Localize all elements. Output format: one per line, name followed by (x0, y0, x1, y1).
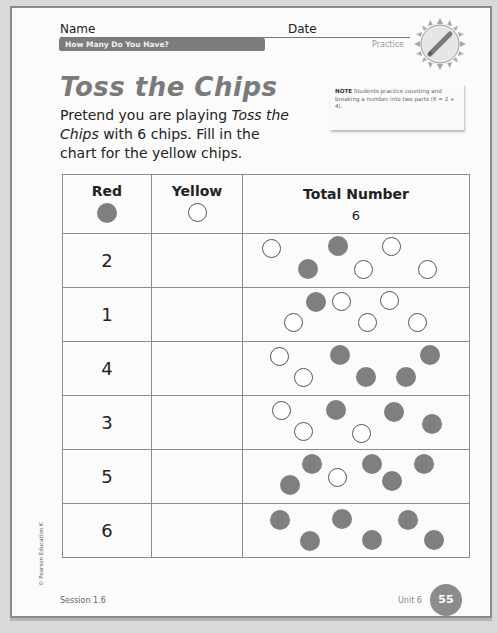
red-count-cell: 5 (63, 450, 152, 504)
yellow-chip-icon (382, 237, 401, 256)
note-text: Students practice counting and breaking … (335, 88, 455, 109)
chart-header-row: Red Yellow Total Number 6 (63, 175, 470, 234)
yellow-chip-icon (272, 401, 291, 420)
red-chip-icon (356, 367, 376, 387)
yellow-chip-icon (408, 313, 427, 332)
yellow-answer-cell[interactable] (152, 450, 243, 504)
red-chip-icon (306, 292, 326, 312)
yellow-answer-cell[interactable] (152, 504, 243, 558)
table-row: 2 (63, 234, 470, 288)
teacher-note: NOTE Students practice counting and brea… (330, 84, 464, 130)
table-row: 6 (63, 504, 470, 558)
red-chip-icon (300, 531, 320, 551)
red-chip-icon (328, 236, 348, 256)
red-chip-icon (414, 454, 434, 474)
yellow-chip-icon (262, 239, 281, 258)
chips-group (248, 504, 464, 557)
yellow-chip-icon (294, 422, 313, 441)
unit-title-bar: How Many Do You Have? (59, 38, 265, 51)
yellow-chip-icon (294, 368, 313, 387)
yellow-header-label: Yellow (172, 183, 223, 199)
practice-label: Practice (372, 40, 404, 49)
yellow-answer-cell[interactable] (152, 342, 243, 396)
yellow-chip-icon (328, 468, 347, 487)
total-header-label: Total Number (303, 186, 409, 202)
yellow-chip-icon (352, 424, 371, 443)
yellow-chip-icon (284, 313, 303, 332)
table-row: 1 (63, 288, 470, 342)
red-chip-icon (396, 367, 416, 387)
copyright: © Pearson Education K (38, 522, 44, 586)
red-chip-icon (97, 203, 117, 223)
red-count-cell: 3 (63, 396, 152, 450)
total-chips-cell (243, 396, 470, 450)
red-chip-icon (270, 510, 290, 530)
total-chips-cell (243, 504, 470, 558)
date-label: Date (288, 22, 317, 36)
red-chip-icon (326, 400, 346, 420)
pencil-icon (414, 18, 466, 70)
note-label: NOTE (335, 88, 352, 94)
total-chips-cell (243, 342, 470, 396)
red-count-cell: 1 (63, 288, 152, 342)
red-chip-icon (362, 530, 382, 550)
red-chip-icon (398, 510, 418, 530)
chips-group (248, 450, 464, 503)
chips-group (248, 234, 464, 287)
yellow-answer-cell[interactable] (152, 396, 243, 450)
chips-group (248, 342, 464, 395)
red-column-header: Red (63, 175, 152, 234)
red-header-label: Red (92, 183, 122, 199)
table-row: 5 (63, 450, 470, 504)
yellow-answer-cell[interactable] (152, 234, 243, 288)
instructions-text: Pretend you are playing (60, 107, 232, 123)
chips-chart: Red Yellow Total Number 6 214356 (62, 174, 470, 558)
page-title: Toss the Chips (60, 72, 277, 102)
yellow-chip-icon (332, 292, 351, 311)
total-chips-cell (243, 450, 470, 504)
yellow-answer-cell[interactable] (152, 288, 243, 342)
red-count-cell: 4 (63, 342, 152, 396)
red-chip-icon (422, 414, 442, 434)
page-number-badge: 55 (430, 584, 462, 616)
yellow-chip-icon (354, 260, 373, 279)
chips-group (248, 396, 464, 449)
chips-group (248, 288, 464, 341)
table-row: 4 (63, 342, 470, 396)
instructions: Pretend you are playing Toss the Chips w… (60, 106, 300, 163)
red-chip-icon (420, 345, 440, 365)
yellow-chip-icon (188, 203, 207, 222)
worksheet-page: Name Date How Many Do You Have? Practice… (10, 6, 492, 618)
table-row: 3 (63, 396, 470, 450)
yellow-chip-icon (418, 260, 437, 279)
total-chips-cell (243, 234, 470, 288)
red-chip-icon (384, 402, 404, 422)
red-chip-icon (424, 530, 444, 550)
red-chip-icon (280, 475, 300, 495)
red-chip-icon (298, 259, 318, 279)
red-chip-icon (302, 454, 322, 474)
red-count-cell: 2 (63, 234, 152, 288)
yellow-chip-icon (358, 313, 377, 332)
total-value: 6 (243, 208, 469, 223)
red-chip-icon (330, 345, 350, 365)
total-chips-cell (243, 288, 470, 342)
session-label: Session 1.6 (60, 596, 106, 605)
total-column-header: Total Number 6 (243, 175, 470, 234)
yellow-column-header: Yellow (152, 175, 243, 234)
yellow-chip-icon (270, 347, 289, 366)
red-chip-icon (332, 509, 352, 529)
red-chip-icon (362, 454, 382, 474)
unit-label: Unit 6 (398, 596, 422, 605)
red-chip-icon (382, 471, 402, 491)
yellow-chip-icon (380, 291, 399, 310)
name-label: Name (60, 22, 95, 36)
red-count-cell: 6 (63, 504, 152, 558)
